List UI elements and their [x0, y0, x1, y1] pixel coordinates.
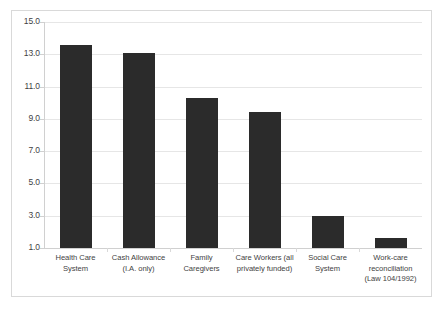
x-axis-category-line: Cash Allowance: [107, 253, 170, 264]
y-tick-label-text: 3.0: [6, 211, 40, 220]
y-tick-label: 9.0: [0, 114, 40, 123]
y-tick-label: 5.0: [0, 178, 40, 187]
x-axis-category-line: (I.A. only): [107, 264, 170, 275]
x-axis-category-line: Social Care: [296, 253, 359, 264]
x-axis-category-line: Care Workers (all: [233, 253, 296, 264]
x-axis-category-line: (Law 104/1992): [359, 274, 422, 285]
y-tick-label: 1.0: [0, 243, 40, 252]
y-tick-label: 7.0: [0, 146, 40, 155]
x-tick-mark: [233, 248, 234, 252]
x-axis-category-line: System: [44, 264, 107, 275]
bar: [186, 98, 218, 248]
y-tick-label-text: 13.0: [6, 49, 40, 58]
x-axis-category-label: FamilyCaregivers: [170, 253, 233, 274]
x-axis-category-line: privately funded): [233, 264, 296, 275]
x-axis-category-line: Health Care: [44, 253, 107, 264]
y-tick-label: 15.0: [0, 17, 40, 26]
x-axis-category-label: Cash Allowance(I.A. only): [107, 253, 170, 274]
bar: [249, 112, 281, 248]
x-axis-category-line: Caregivers: [170, 264, 233, 275]
bar: [123, 53, 155, 248]
x-axis-category-line: System: [296, 264, 359, 275]
bar: [312, 216, 344, 248]
y-tick-label-text: 7.0: [6, 146, 40, 155]
bar-chart: 15.013.011.09.07.05.03.01.0 Health CareS…: [0, 0, 444, 309]
x-tick-mark: [170, 248, 171, 252]
y-tick-label-text: 9.0: [6, 114, 40, 123]
bar: [60, 45, 92, 248]
x-tick-mark: [107, 248, 108, 252]
y-tick-label: 13.0: [0, 49, 40, 58]
x-axis-category-label: Work-carereconciliation(Law 104/1992): [359, 253, 422, 285]
x-axis-category-line: Family: [170, 253, 233, 264]
y-tick-label-text: 1.0: [6, 243, 40, 252]
y-tick-label-text: 11.0: [6, 82, 40, 91]
y-tick-label: 11.0: [0, 82, 40, 91]
x-tick-mark: [296, 248, 297, 252]
y-tick-label-text: 15.0: [6, 17, 40, 26]
x-axis-labels: Health CareSystemCash Allowance(I.A. onl…: [44, 253, 422, 295]
bar: [375, 238, 407, 248]
y-tick-label-text: 5.0: [6, 178, 40, 187]
x-axis-category-label: Care Workers (allprivately funded): [233, 253, 296, 274]
x-axis-category-line: Work-care: [359, 253, 422, 264]
x-axis-category-label: Social CareSystem: [296, 253, 359, 274]
x-axis-category-line: reconciliation: [359, 264, 422, 275]
y-tick-label: 3.0: [0, 211, 40, 220]
x-tick-mark: [359, 248, 360, 252]
bars-layer: [44, 22, 422, 248]
x-axis-category-label: Health CareSystem: [44, 253, 107, 274]
